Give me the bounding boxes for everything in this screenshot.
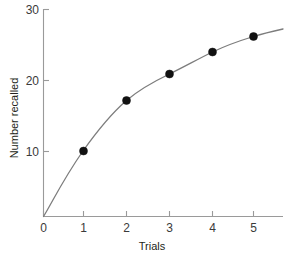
data-point-1 bbox=[80, 147, 88, 155]
x-tick-label-3: 3 bbox=[166, 221, 173, 235]
x-tick-label-0: 0 bbox=[40, 221, 47, 235]
x-tick-label-4: 4 bbox=[209, 221, 216, 235]
data-point-2 bbox=[123, 97, 131, 105]
y-tick-label-20: 20 bbox=[26, 74, 40, 88]
x-tick-label-2: 2 bbox=[123, 221, 130, 235]
data-point-4 bbox=[209, 48, 217, 56]
y-tick-label-30: 30 bbox=[26, 3, 40, 17]
data-point-5 bbox=[250, 33, 258, 41]
x-tick-label-5: 5 bbox=[250, 221, 257, 235]
learning-curve-chart: 30 20 10 0 1 2 3 4 5 Trials Number recal… bbox=[0, 0, 290, 256]
x-axis-title: Trials bbox=[139, 240, 166, 252]
x-tick-label-1: 1 bbox=[80, 221, 87, 235]
y-tick-label-10: 10 bbox=[26, 145, 40, 159]
chart-figure: 30 20 10 0 1 2 3 4 5 Trials Number recal… bbox=[0, 0, 290, 256]
data-point-3 bbox=[166, 70, 174, 78]
y-axis-title: Number recalled bbox=[8, 78, 20, 159]
